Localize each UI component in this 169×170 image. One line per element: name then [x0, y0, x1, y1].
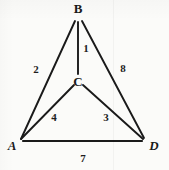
edge-a-b [21, 21, 75, 139]
edge-weight-b-d: 8 [120, 63, 126, 74]
edge-weight-b-c: 1 [83, 43, 89, 54]
node-label-d: D [149, 139, 158, 152]
node-label-c: C [73, 75, 82, 88]
edge-a-c [21, 85, 74, 139]
graph-canvas [0, 0, 169, 170]
weighted-graph-diagram: B C A D 1 2 3 4 7 8 [0, 0, 169, 170]
edge-weight-a-b: 2 [33, 64, 39, 75]
node-label-b: B [74, 2, 83, 15]
node-label-a: A [8, 139, 17, 152]
edge-weight-c-d: 3 [103, 112, 109, 123]
edge-weight-a-d: 7 [80, 153, 86, 164]
scan-line-artifact [113, 0, 114, 170]
edge-weight-a-c: 4 [51, 112, 57, 123]
